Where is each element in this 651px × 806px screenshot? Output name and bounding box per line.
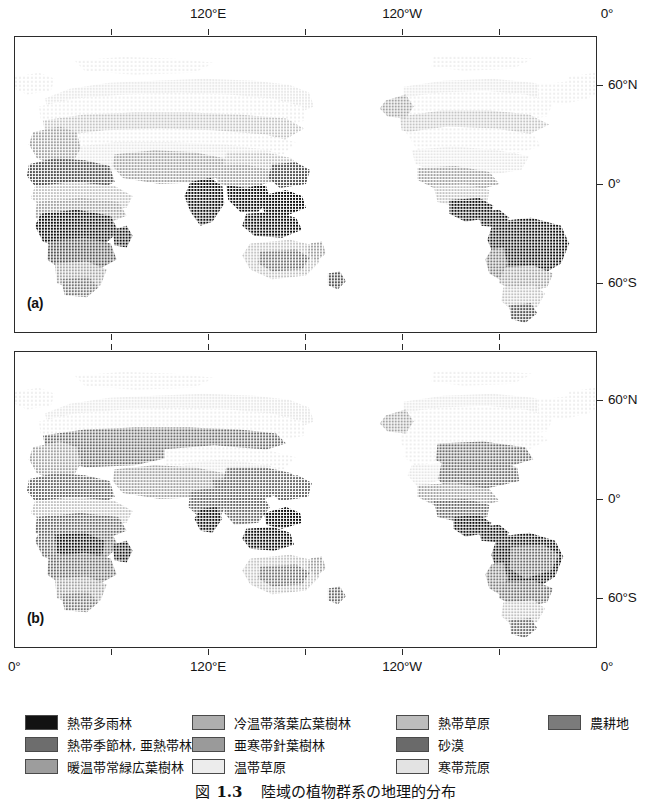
legend-item-tropical-grassland: 熱帯草原 bbox=[396, 713, 490, 732]
legend-item-cropland: 農耕地 bbox=[548, 713, 629, 732]
bottom-tick-60e bbox=[111, 649, 112, 655]
panel-a-tag: (a) bbox=[27, 295, 43, 311]
bottom-axis-label-0-left: 0° bbox=[8, 659, 21, 674]
legend-item-temperate-grassland: 温帯草原 bbox=[192, 757, 286, 776]
legend-swatch-warm-temperate-evergreen bbox=[25, 759, 58, 774]
mid-tick-b-120w bbox=[402, 344, 403, 350]
map-b-canvas bbox=[15, 352, 596, 647]
top-tick-60e bbox=[111, 29, 112, 35]
top-tick-60w bbox=[499, 29, 500, 35]
top-tick-180 bbox=[305, 29, 306, 35]
map-a-canvas bbox=[15, 37, 596, 332]
legend-label-desert: 砂漠 bbox=[438, 735, 464, 754]
mid-tick-b-60w bbox=[499, 344, 500, 350]
legend-swatch-cool-temperate-deciduous bbox=[192, 715, 225, 730]
mid-tick-60w bbox=[499, 334, 500, 340]
figure-caption: 図1.3陸域の植物群系の地理的分布 bbox=[0, 780, 651, 801]
legend-item-boreal-conifer: 亜寒帯針葉樹林 bbox=[192, 735, 325, 754]
mid-tick-b-60e bbox=[111, 344, 112, 350]
caption-number: 1.3 bbox=[216, 783, 242, 801]
legend-swatch-desert bbox=[396, 737, 429, 752]
caption-title: 陸域の植物群系の地理的分布 bbox=[261, 783, 456, 801]
legend-label-tropical-grassland: 熱帯草原 bbox=[438, 713, 490, 732]
map-panel-b: (b) bbox=[14, 351, 597, 648]
panel-a-tick-0 bbox=[597, 184, 603, 185]
top-tick-120e bbox=[208, 29, 209, 35]
panel-a-tick-60s bbox=[597, 283, 603, 284]
legend-swatch-cropland bbox=[548, 715, 581, 730]
top-axis-label-0: 0° bbox=[601, 6, 614, 21]
mid-tick-120e bbox=[208, 334, 209, 340]
world-map-a bbox=[15, 37, 596, 332]
panel-a-label-60n: 60°N bbox=[608, 77, 637, 92]
legend-label-boreal-conifer: 亜寒帯針葉樹林 bbox=[234, 735, 325, 754]
bottom-tick-120w bbox=[402, 649, 403, 655]
panel-b-tick-60s bbox=[597, 598, 603, 599]
world-map-b bbox=[15, 352, 596, 647]
legend-swatch-polar-desert bbox=[396, 759, 429, 774]
mid-tick-60e bbox=[111, 334, 112, 340]
legend-label-temperate-grassland: 温帯草原 bbox=[234, 757, 286, 776]
panel-a-label-0: 0° bbox=[608, 176, 621, 191]
legend-swatch-temperate-grassland bbox=[192, 759, 225, 774]
legend: 熱帯多雨林 熱帯季節林, 亜熱帯林 暖温帯常緑広葉樹林 冷温帯落葉広葉樹林 亜寒… bbox=[0, 710, 651, 778]
top-tick-120w bbox=[402, 29, 403, 35]
mid-tick-120w bbox=[402, 334, 403, 340]
top-axis-label-120e: 120°E bbox=[190, 6, 226, 21]
legend-item-tropical-seasonal-forest: 熱帯季節林, 亜熱帯林 bbox=[25, 735, 192, 754]
panel-b-tag: (b) bbox=[27, 610, 44, 626]
legend-swatch-tropical-grassland bbox=[396, 715, 429, 730]
panel-b-label-60s: 60°S bbox=[608, 590, 637, 605]
legend-item-desert: 砂漠 bbox=[396, 735, 464, 754]
panel-b-label-60n: 60°N bbox=[608, 392, 637, 407]
legend-label-cropland: 農耕地 bbox=[590, 713, 629, 732]
legend-label-tropical-rainforest: 熱帯多雨林 bbox=[67, 713, 132, 732]
legend-item-cool-temperate-deciduous: 冷温帯落葉広葉樹林 bbox=[192, 713, 351, 732]
mid-tick-180 bbox=[305, 334, 306, 340]
panel-b-label-0: 0° bbox=[608, 491, 621, 506]
panel-b-tick-60n bbox=[597, 400, 603, 401]
legend-label-tropical-seasonal-forest: 熱帯季節林, 亜熱帯林 bbox=[67, 735, 192, 754]
legend-swatch-tropical-seasonal-forest bbox=[25, 737, 58, 752]
panel-a-tick-60n bbox=[597, 85, 603, 86]
panel-a-label-60s: 60°S bbox=[608, 275, 637, 290]
legend-label-warm-temperate-evergreen: 暖温帯常緑広葉樹林 bbox=[67, 757, 184, 776]
legend-swatch-tropical-rainforest bbox=[25, 715, 58, 730]
top-axis-label-120w: 120°W bbox=[382, 6, 422, 21]
bottom-tick-120e bbox=[208, 649, 209, 655]
caption-prefix: 図 bbox=[195, 783, 210, 801]
mid-tick-b-180 bbox=[305, 344, 306, 350]
legend-label-cool-temperate-deciduous: 冷温帯落葉広葉樹林 bbox=[234, 713, 351, 732]
legend-item-polar-desert: 寒帯荒原 bbox=[396, 757, 490, 776]
bottom-tick-180 bbox=[305, 649, 306, 655]
legend-label-polar-desert: 寒帯荒原 bbox=[438, 757, 490, 776]
map-panel-a: (a) bbox=[14, 36, 597, 333]
legend-item-tropical-rainforest: 熱帯多雨林 bbox=[25, 713, 132, 732]
mid-tick-b-120e bbox=[208, 344, 209, 350]
panel-b-tick-0 bbox=[597, 499, 603, 500]
bottom-axis-label-120e: 120°E bbox=[190, 659, 226, 674]
bottom-tick-60w bbox=[499, 649, 500, 655]
bottom-axis-label-0-right: 0° bbox=[601, 659, 614, 674]
bottom-axis-label-120w: 120°W bbox=[382, 659, 422, 674]
legend-item-warm-temperate-evergreen: 暖温帯常緑広葉樹林 bbox=[25, 757, 184, 776]
legend-swatch-boreal-conifer bbox=[192, 737, 225, 752]
figure-1-3: 120°E 120°W 0° bbox=[0, 0, 651, 806]
